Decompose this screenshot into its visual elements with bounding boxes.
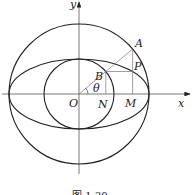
angle-theta-label: θ [93,82,100,95]
diagram-canvas: y x O A B P N M θ 图 1-20 [0,0,195,195]
y-axis-label: y [69,0,77,11]
origin-label: O [69,97,78,110]
x-axis-label: x [178,97,185,110]
point-n-label: N [97,98,108,111]
point-a-label: A [134,37,143,50]
angle-arc [86,88,88,94]
point-m-label: M [124,97,137,110]
figure-caption: 图 1-20 [72,190,108,195]
point-p-label: P [133,60,142,73]
